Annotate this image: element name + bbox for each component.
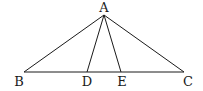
segment-ad	[87, 15, 104, 72]
point-label-e: E	[117, 74, 127, 89]
point-label-c: C	[183, 74, 193, 89]
segment-ac	[104, 15, 184, 72]
segment-ae	[104, 15, 121, 72]
labels-group: ABCDE	[14, 0, 193, 89]
point-label-b: B	[14, 74, 24, 89]
triangle-diagram: ABCDE	[0, 0, 203, 91]
segments-group	[24, 15, 184, 72]
segment-ab	[24, 15, 104, 72]
point-label-d: D	[82, 74, 92, 89]
point-label-a: A	[98, 0, 109, 15]
